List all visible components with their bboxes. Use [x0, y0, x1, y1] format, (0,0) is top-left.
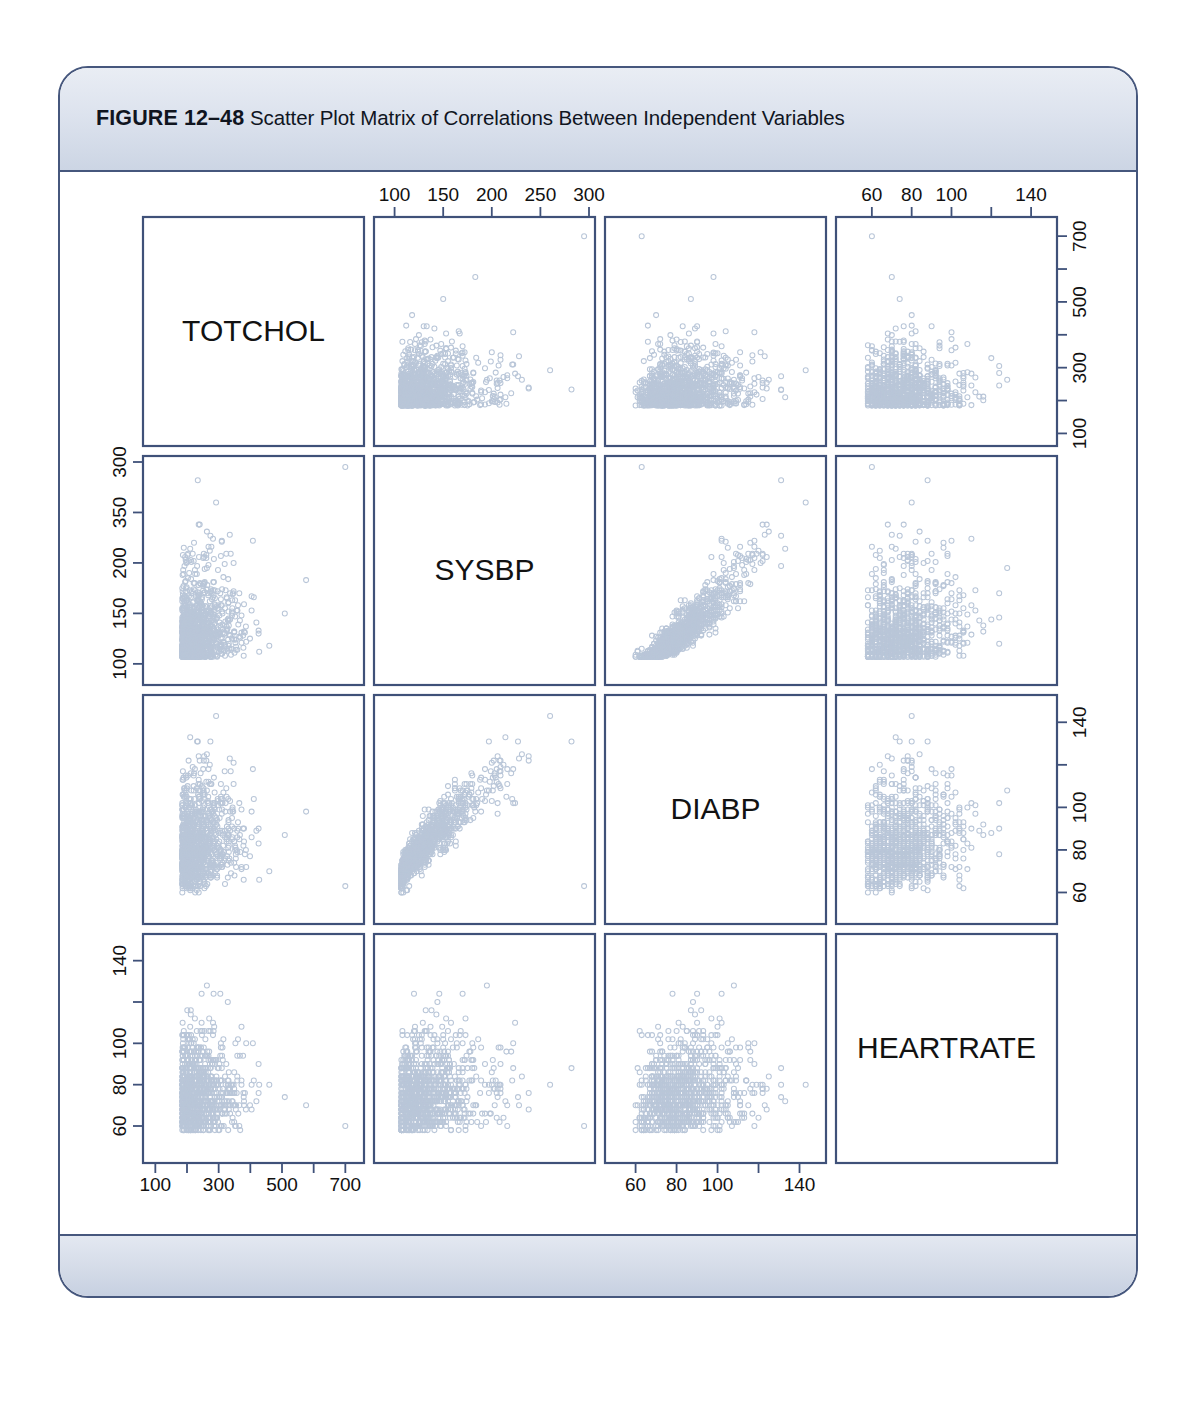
- tick-label: 100: [702, 1174, 734, 1195]
- tick-label: 700: [329, 1174, 361, 1195]
- tick-label: 100: [1069, 418, 1090, 450]
- tick-label: 200: [109, 547, 130, 579]
- diagonal-panel-heartrate: HEARTRATE: [836, 934, 1057, 1163]
- tick-label: 100: [1069, 792, 1090, 824]
- figure-footer-band: [60, 1234, 1136, 1296]
- tick-label: 200: [476, 184, 508, 205]
- panel-variable-label: TOTCHOL: [182, 314, 325, 347]
- tick-label: 100: [109, 648, 130, 680]
- panel-variable-label: HEARTRATE: [857, 1031, 1036, 1064]
- tick-label: 140: [109, 945, 130, 977]
- scatter-panel-totchol-vs-sysbp: [143, 456, 364, 685]
- tick-label: 300: [109, 446, 130, 478]
- tick-label: 500: [266, 1174, 298, 1195]
- figure-title: FIGURE 12–48 Scatter Plot Matrix of Corr…: [96, 106, 845, 131]
- axis-heartrate-left: 6080100140: [109, 945, 142, 1137]
- tick-label: 140: [1015, 184, 1047, 205]
- figure-card: FIGURE 12–48 Scatter Plot Matrix of Corr…: [58, 66, 1138, 1298]
- axis-sysbp-left: 100150200350300: [109, 446, 142, 680]
- tick-label: 60: [109, 1115, 130, 1136]
- axis-heartrate-top: 6080100140: [861, 184, 1047, 216]
- axis-sysbp-top: 100150200250300: [379, 184, 605, 216]
- scatter-panel-heartrate-vs-sysbp: [836, 456, 1057, 685]
- scatter-panel-totchol-vs-heartrate: [143, 934, 364, 1163]
- tick-label: 100: [379, 184, 411, 205]
- scatter-panel-totchol-vs-diabp: [143, 695, 364, 924]
- diagonal-panel-diabp: DIABP: [605, 695, 826, 924]
- axis-totchol-right: 100300500700: [1058, 220, 1090, 449]
- tick-label: 60: [1069, 882, 1090, 903]
- tick-label: 60: [861, 184, 882, 205]
- tick-label: 140: [1069, 706, 1090, 738]
- scatter-panel-sysbp-vs-diabp: [374, 695, 595, 924]
- tick-label: 300: [203, 1174, 235, 1195]
- scatter-panel-diabp-vs-heartrate: [605, 934, 826, 1163]
- scatter-panel-sysbp-vs-heartrate: [374, 934, 595, 1163]
- panel-variable-label: DIABP: [670, 792, 760, 825]
- axis-diabp-bottom: 6080100140: [625, 1164, 815, 1195]
- scatter-panel-diabp-vs-totchol: [605, 217, 826, 446]
- diagonal-panel-totchol: TOTCHOL: [143, 217, 364, 446]
- tick-label: 250: [525, 184, 557, 205]
- tick-label: 140: [784, 1174, 816, 1195]
- tick-label: 350: [109, 497, 130, 529]
- axis-diabp-right: 6080100140: [1058, 706, 1090, 903]
- tick-label: 100: [109, 1027, 130, 1059]
- tick-label: 100: [936, 184, 968, 205]
- figure-number: FIGURE 12–48: [96, 106, 244, 130]
- tick-label: 300: [1069, 352, 1090, 384]
- diagonal-panel-sysbp: SYSBP: [374, 456, 595, 685]
- tick-label: 150: [109, 598, 130, 630]
- figure-caption: Scatter Plot Matrix of Correlations Betw…: [250, 106, 845, 129]
- scatter-matrix-svg: TOTCHOLSYSBPDIABPHEARTRATE10015020025030…: [60, 172, 1136, 1238]
- tick-label: 80: [666, 1174, 687, 1195]
- tick-label: 300: [573, 184, 605, 205]
- tick-label: 700: [1069, 220, 1090, 252]
- axis-totchol-bottom: 100300500700: [139, 1164, 361, 1195]
- tick-label: 100: [139, 1174, 171, 1195]
- tick-label: 80: [1069, 839, 1090, 860]
- tick-label: 60: [625, 1174, 646, 1195]
- tick-label: 80: [109, 1074, 130, 1095]
- tick-label: 500: [1069, 286, 1090, 318]
- scatter-panel-sysbp-vs-totchol: [374, 217, 595, 446]
- tick-label: 80: [901, 184, 922, 205]
- scatter-panel-heartrate-vs-totchol: [836, 217, 1057, 446]
- scatter-plot-matrix: TOTCHOLSYSBPDIABPHEARTRATE10015020025030…: [60, 172, 1136, 1238]
- scatter-panel-diabp-vs-sysbp: [605, 456, 826, 685]
- scatter-panel-heartrate-vs-diabp: [836, 695, 1057, 924]
- tick-label: 150: [427, 184, 459, 205]
- panel-variable-label: SYSBP: [434, 553, 534, 586]
